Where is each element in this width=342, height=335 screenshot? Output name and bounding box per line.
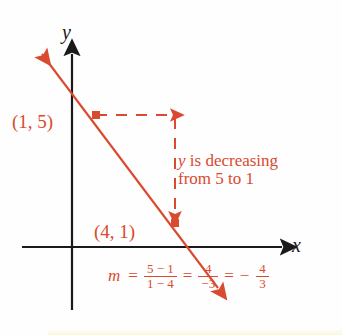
slope-symbol: m xyxy=(108,267,120,285)
y-axis-label: y xyxy=(62,22,71,44)
fraction-difference-denominator: 1 − 4 xyxy=(144,276,177,291)
point-marker-4-1 xyxy=(171,219,179,227)
annotation-line2: from 5 to 1 xyxy=(178,170,278,188)
leading-minus-sign: − xyxy=(240,267,252,285)
fraction-simplified-denominator: −3 xyxy=(198,276,218,291)
fraction-result-numerator: 4 xyxy=(256,262,269,276)
x-axis-label: x xyxy=(292,235,301,257)
slope-figure: y x (1, 5) (4, 1) y is decreasing from 5… xyxy=(0,0,342,335)
equals-sign-3: = xyxy=(223,267,235,285)
equals-sign-1: = xyxy=(127,267,139,285)
annotation-line1-rest: is decreasing xyxy=(186,151,279,170)
fraction-simplified-numerator: 4 xyxy=(202,262,215,276)
annotation-variable: y xyxy=(178,151,186,170)
point-label-1-5: (1, 5) xyxy=(12,112,53,133)
fraction-simplified: 4 −3 xyxy=(198,262,218,290)
fraction-difference-numerator: 5 − 1 xyxy=(144,262,177,276)
point-label-4-1: (4, 1) xyxy=(94,222,135,243)
equals-sign-2: = xyxy=(182,267,194,285)
slope-formula: m = 5 − 1 1 − 4 = 4 −3 = − 4 3 xyxy=(108,262,269,290)
fraction-result-denominator: 3 xyxy=(256,276,269,291)
fraction-result: 4 3 xyxy=(256,262,269,290)
decreasing-annotation: y is decreasing from 5 to 1 xyxy=(178,152,278,189)
bottom-color-band xyxy=(48,328,342,335)
point-marker-1-5 xyxy=(92,111,100,119)
fraction-difference: 5 − 1 1 − 4 xyxy=(144,262,177,290)
